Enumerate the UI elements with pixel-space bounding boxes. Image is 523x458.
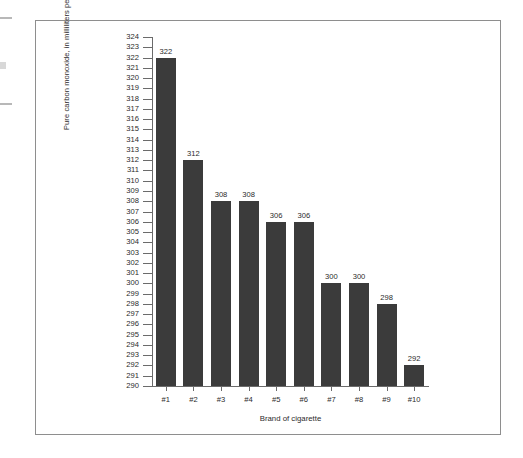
y-axis-tick-label: 290: [115, 382, 139, 390]
y-axis-tick-label-wrap: 304: [0, 242, 152, 243]
bar-value-label: 308: [215, 190, 228, 199]
y-axis-tick-label-wrap: 306: [0, 222, 152, 223]
y-axis-tick-label-wrap: 312: [0, 160, 152, 161]
figure-page: Pure carbon monoxide, in milliliters per…: [0, 0, 523, 458]
y-axis-tick-label: 312: [115, 156, 139, 164]
x-axis-tick-label: #10: [408, 395, 421, 404]
y-axis-tick-label: 306: [115, 218, 139, 226]
y-axis-tick-label-wrap: 310: [0, 181, 152, 182]
y-axis-tick-label-wrap: 299: [0, 294, 152, 295]
y-axis-tick-label: 315: [115, 125, 139, 133]
x-axis-tick: [414, 386, 415, 391]
x-axis-tick-label: #9: [382, 395, 390, 404]
y-axis-tick-label: 297: [115, 310, 139, 318]
x-axis-tick-label: #4: [244, 395, 252, 404]
y-axis-tick-label-wrap: 301: [0, 273, 152, 274]
bar-value-label: 322: [159, 47, 172, 56]
y-axis-tick-label: 299: [115, 290, 139, 298]
x-axis-tick-label: #2: [189, 395, 197, 404]
x-axis-tick: [221, 386, 222, 391]
y-axis-tick-label-wrap: 291: [0, 376, 152, 377]
y-axis-tick-label: 310: [115, 177, 139, 185]
y-axis-tick-label-wrap: 293: [0, 355, 152, 356]
y-axis-tick-label: 314: [115, 136, 139, 144]
y-axis-tick-label: 324: [115, 33, 139, 41]
y-axis-tick-label: 302: [115, 259, 139, 267]
y-axis-tick-label-wrap: 292: [0, 365, 152, 366]
bar-chart: Pure carbon monoxide, in milliliters per…: [0, 0, 523, 458]
y-axis-tick-label: 320: [115, 74, 139, 82]
x-axis-tick-label: #6: [300, 395, 308, 404]
bar: [266, 222, 286, 386]
y-axis-tick-label: 307: [115, 208, 139, 216]
y-axis-tick-label-wrap: 302: [0, 263, 152, 264]
bar-value-label: 300: [353, 272, 366, 281]
y-axis-tick-label: 316: [115, 115, 139, 123]
y-axis-tick-label-wrap: 316: [0, 119, 152, 120]
y-axis-tick-label: 319: [115, 84, 139, 92]
y-axis-tick-label: 292: [115, 361, 139, 369]
x-axis-tick: [166, 386, 167, 391]
y-axis-tick-label: 304: [115, 238, 139, 246]
y-axis-tick-label-wrap: 320: [0, 78, 152, 79]
y-axis-tick-label: 296: [115, 320, 139, 328]
y-axis-tick-label-wrap: 307: [0, 212, 152, 213]
y-axis-tick-label-wrap: 300: [0, 283, 152, 284]
bar-value-label: 298: [380, 293, 393, 302]
x-axis-title: Brand of cigarette: [152, 414, 429, 423]
y-axis-tick-label: 303: [115, 249, 139, 257]
y-axis-tick-label-wrap: 323: [0, 47, 152, 48]
y-axis-tick-label: 305: [115, 228, 139, 236]
y-axis-tick-label-wrap: 324: [0, 37, 152, 38]
x-axis-tick-label: #3: [217, 395, 225, 404]
x-axis-tick: [276, 386, 277, 391]
y-axis-tick-label: 300: [115, 279, 139, 287]
y-axis-title: Pure carbon monoxide, in milliliters per…: [62, 0, 71, 130]
y-axis-tick-label: 322: [115, 54, 139, 62]
y-axis-tick-label: 317: [115, 105, 139, 113]
x-axis-tick-label: #8: [355, 395, 363, 404]
bar-value-label: 292: [408, 354, 421, 363]
y-axis-tick-label-wrap: 290: [0, 386, 152, 387]
y-axis-tick-label-wrap: 313: [0, 150, 152, 151]
y-axis-tick-label: 294: [115, 341, 139, 349]
bar: [404, 365, 424, 386]
y-axis-tick-label-wrap: 318: [0, 99, 152, 100]
y-axis-tick-label-wrap: 309: [0, 191, 152, 192]
y-axis-tick-label-wrap: 298: [0, 304, 152, 305]
y-axis-tick-label-wrap: 297: [0, 314, 152, 315]
x-axis-tick: [249, 386, 250, 391]
x-axis-tick-label: #7: [327, 395, 335, 404]
y-axis-tick-label: 321: [115, 64, 139, 72]
bar: [211, 201, 231, 386]
y-axis-tick-label-wrap: 319: [0, 88, 152, 89]
x-axis-tick: [193, 386, 194, 391]
y-axis-tick-label: 301: [115, 269, 139, 277]
y-axis-tick-label: 308: [115, 197, 139, 205]
bar: [294, 222, 314, 386]
bar-value-label: 312: [187, 149, 200, 158]
x-axis-tick: [331, 386, 332, 391]
y-axis-tick-label-wrap: 315: [0, 129, 152, 130]
bar: [239, 201, 259, 386]
y-axis-tick-label-wrap: 311: [0, 170, 152, 171]
y-axis-line: [152, 37, 153, 387]
y-axis-tick-label-wrap: 295: [0, 335, 152, 336]
bar: [321, 283, 341, 386]
y-axis-tick-label: 311: [115, 166, 139, 174]
y-axis-tick-label-wrap: 294: [0, 345, 152, 346]
y-axis-tick-label: 309: [115, 187, 139, 195]
y-axis-tick-label-wrap: 305: [0, 232, 152, 233]
bar-value-label: 306: [297, 211, 310, 220]
bar: [349, 283, 369, 386]
y-axis-tick-label-wrap: 303: [0, 253, 152, 254]
y-axis-tick-label-wrap: 296: [0, 324, 152, 325]
bar: [156, 58, 176, 386]
bar-value-label: 308: [242, 190, 255, 199]
bar: [377, 304, 397, 386]
x-axis-tick-label: #5: [272, 395, 280, 404]
x-axis-tick: [359, 386, 360, 391]
y-axis-tick-label-wrap: 322: [0, 58, 152, 59]
y-axis-tick-label: 318: [115, 95, 139, 103]
bar: [183, 160, 203, 386]
